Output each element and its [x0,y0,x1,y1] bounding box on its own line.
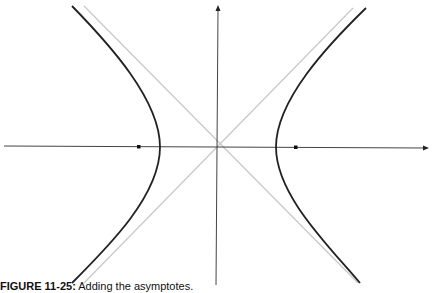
figure-caption-text: Adding the asymptotes. [76,280,193,292]
hyperbola-left-branch [72,6,160,283]
x-axis-arrow-icon [423,146,429,151]
left-focus-point [137,145,141,149]
figure-caption: FIGURE 11-25: Adding the asymptotes. [0,279,193,293]
hyperbola-right-branch [276,8,366,283]
x-axis [4,146,425,148]
hyperbola-diagram [0,0,433,293]
y-axis-arrow-icon [216,5,221,11]
right-focus-point [294,146,298,150]
asymptote-positive-slope [84,8,353,283]
figure-caption-label: FIGURE 11-25: [0,280,76,292]
